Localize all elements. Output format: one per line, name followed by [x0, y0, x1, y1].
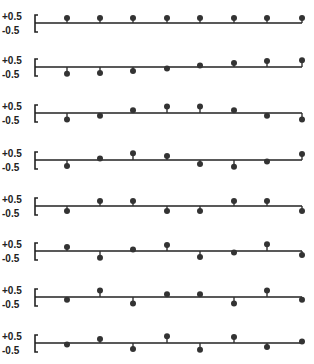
stem-marker — [164, 208, 170, 214]
stem-marker — [264, 113, 270, 119]
y-label-top: +0.5 — [2, 285, 22, 296]
stem-marker — [299, 57, 305, 63]
stem-marker — [130, 15, 136, 21]
stem-marker — [197, 161, 203, 167]
stem-marker — [197, 208, 203, 214]
stem-marker — [97, 70, 103, 76]
y-label-bottom: -0.5 — [2, 345, 20, 356]
stem-marker — [64, 341, 70, 347]
stem-marker — [130, 150, 136, 156]
stem-marker — [197, 104, 203, 110]
stem-row-4: +0.5-0.5 — [2, 148, 305, 173]
stem-marker — [64, 163, 70, 169]
stem-marker — [299, 339, 305, 345]
y-label-top: +0.5 — [2, 55, 22, 66]
y-label-top: +0.5 — [2, 148, 22, 159]
y-label-bottom: -0.5 — [2, 115, 20, 126]
stem-marker — [97, 156, 103, 162]
stem-row-5: +0.5-0.5 — [2, 194, 305, 219]
y-label-bottom: -0.5 — [2, 299, 20, 310]
stem-row-6: +0.5-0.5 — [2, 239, 305, 264]
stem-marker — [231, 60, 237, 66]
stem-marker — [130, 247, 136, 253]
y-label-top: +0.5 — [2, 239, 22, 250]
stem-marker — [197, 63, 203, 69]
stem-marker — [264, 344, 270, 350]
stem-marker — [197, 254, 203, 260]
stem-marker — [97, 15, 103, 21]
y-label-top: +0.5 — [2, 11, 22, 22]
y-label-bottom: -0.5 — [2, 69, 20, 80]
y-label-top: +0.5 — [2, 194, 22, 205]
stem-row-7: +0.5-0.5 — [2, 285, 305, 310]
stem-marker — [164, 242, 170, 248]
y-label-top: +0.5 — [2, 331, 22, 342]
stem-marker — [231, 164, 237, 170]
y-label-bottom: -0.5 — [2, 162, 20, 173]
stem-marker — [231, 15, 237, 21]
stem-marker — [64, 297, 70, 303]
stem-marker — [264, 58, 270, 64]
stem-marker — [231, 198, 237, 204]
stem-marker — [64, 208, 70, 214]
stem-row-8: +0.5-0.5 — [2, 331, 305, 356]
stem-marker — [231, 300, 237, 306]
stem-marker — [97, 288, 103, 294]
stem-marker — [164, 15, 170, 21]
stem-marker — [299, 15, 305, 21]
stem-marker — [264, 288, 270, 294]
stem-marker — [130, 107, 136, 113]
stem-marker — [97, 113, 103, 119]
stem-marker — [97, 198, 103, 204]
stem-plot-stack: +0.5-0.5+0.5-0.5+0.5-0.5+0.5-0.5+0.5-0.5… — [0, 0, 314, 364]
stem-marker — [130, 300, 136, 306]
stem-marker — [299, 252, 305, 258]
stem-marker — [264, 198, 270, 204]
stem-marker — [299, 151, 305, 157]
stem-marker — [264, 241, 270, 247]
stem-marker — [64, 116, 70, 122]
stem-marker — [97, 255, 103, 261]
stem-row-3: +0.5-0.5 — [2, 101, 305, 126]
stem-marker — [264, 15, 270, 21]
stem-marker — [197, 347, 203, 353]
stem-marker — [64, 71, 70, 77]
stem-marker — [130, 346, 136, 352]
y-label-bottom: -0.5 — [2, 208, 20, 219]
stem-marker — [64, 15, 70, 21]
stem-marker — [231, 249, 237, 255]
y-label-bottom: -0.5 — [2, 25, 20, 36]
stem-marker — [130, 198, 136, 204]
stem-row-1: +0.5-0.5 — [2, 11, 305, 36]
y-label-bottom: -0.5 — [2, 253, 20, 264]
stem-marker — [299, 208, 305, 214]
y-label-top: +0.5 — [2, 101, 22, 112]
stem-marker — [164, 104, 170, 110]
stem-marker — [197, 291, 203, 297]
stem-marker — [164, 153, 170, 159]
stem-marker — [164, 333, 170, 339]
stem-marker — [264, 158, 270, 164]
stem-marker — [231, 107, 237, 113]
stem-marker — [97, 336, 103, 342]
stem-marker — [299, 116, 305, 122]
stem-row-2: +0.5-0.5 — [2, 55, 305, 80]
stem-marker — [299, 297, 305, 303]
stem-marker — [197, 15, 203, 21]
stem-marker — [164, 65, 170, 71]
stem-marker — [231, 334, 237, 340]
stem-marker — [164, 291, 170, 297]
stem-marker — [130, 68, 136, 74]
stem-marker — [64, 244, 70, 250]
